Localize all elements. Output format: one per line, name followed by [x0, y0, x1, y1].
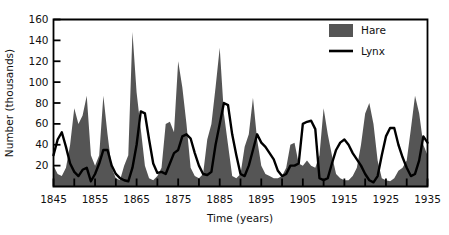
x-tick-label: 1885: [206, 193, 233, 205]
x-axis-title: Time (years): [206, 212, 273, 224]
legend-swatch-hare: [329, 24, 353, 37]
x-tick-label: 1905: [289, 193, 316, 205]
x-tick-label: 1935: [414, 193, 441, 205]
x-tick-label: 1875: [165, 193, 192, 205]
y-tick-label: 100: [28, 76, 48, 88]
chart-canvas: 20406080100120140160 1845185518651875188…: [0, 0, 449, 235]
y-tick-label: 60: [35, 117, 48, 129]
y-axis-title-text: Number (thousands): [3, 49, 15, 157]
y-axis-title: Number (thousands): [3, 49, 15, 157]
x-tick-label: 1845: [40, 193, 67, 205]
legend-label-hare: Hare: [361, 24, 386, 36]
y-tick-label: 120: [28, 55, 48, 67]
y-tick-label: 140: [28, 34, 48, 46]
hare-lynx-population-chart: 20406080100120140160 1845185518651875188…: [0, 0, 449, 235]
y-tick-label: 80: [35, 97, 48, 109]
x-tick-label: 1855: [82, 193, 109, 205]
legend-label-lynx: Lynx: [361, 45, 385, 57]
x-tick-label: 1865: [123, 193, 150, 205]
y-tick-label: 160: [28, 13, 48, 25]
x-tick-label: 1895: [248, 193, 275, 205]
x-tick-label: 1925: [373, 193, 400, 205]
x-axis-title-text: Time (years): [206, 212, 273, 224]
y-tick-label: 20: [35, 159, 48, 171]
x-tick-label: 1915: [331, 193, 358, 205]
y-tick-label: 40: [35, 138, 48, 150]
